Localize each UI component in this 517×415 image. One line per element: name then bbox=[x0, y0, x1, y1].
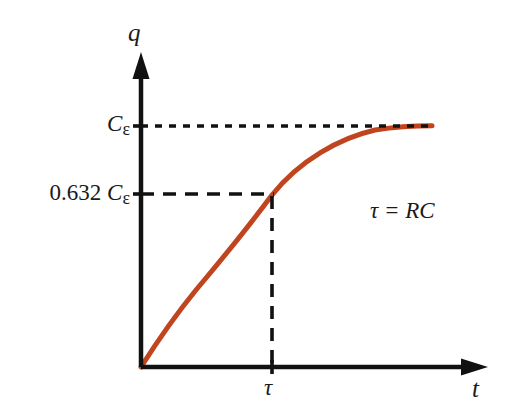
annotation-equals-sign: = bbox=[378, 198, 405, 223]
capacitor-charging-figure: q t Cε 0.632 Cε τ τ = RC bbox=[0, 0, 517, 415]
c-epsilon-subscript: ε bbox=[122, 119, 130, 139]
c-epsilon-base: C bbox=[107, 111, 122, 136]
annotation-rc-symbol: RC bbox=[405, 198, 434, 223]
y-axis-label: q bbox=[128, 20, 141, 45]
annotation-tau-symbol: τ bbox=[370, 198, 378, 223]
c-epsilon-subscript-2: ε bbox=[122, 188, 130, 208]
annotation-tau-equals-rc: τ = RC bbox=[370, 199, 435, 222]
point-632-prefix: 0.632 bbox=[50, 180, 108, 205]
y-tick-label-632-c-epsilon: 0.632 Cε bbox=[50, 181, 130, 208]
c-epsilon-base-2: C bbox=[107, 180, 122, 205]
x-tick-label-tau: τ bbox=[264, 376, 272, 399]
y-tick-label-c-epsilon: Cε bbox=[107, 112, 130, 139]
x-axis-label: t bbox=[472, 376, 479, 401]
